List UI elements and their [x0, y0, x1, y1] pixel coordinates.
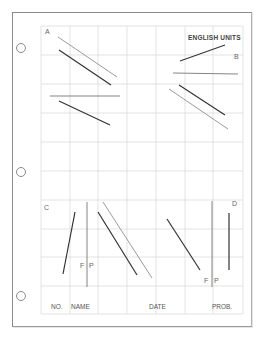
plane-label-d-profile: P	[214, 277, 219, 284]
problem-d-lines	[167, 201, 229, 287]
title-block-name: NAME	[71, 303, 90, 310]
plane-label-c-profile: P	[89, 262, 94, 269]
problem-b-lines	[169, 45, 238, 129]
plane-label-d-frontal: F	[204, 277, 208, 284]
plane-label-c-frontal: F	[80, 262, 84, 269]
title-block-prob: PROB.	[212, 303, 232, 310]
problem-a-label: A	[45, 28, 50, 35]
problem-d-label: D	[232, 200, 237, 207]
title-block-no: NO.	[51, 303, 63, 310]
problem-c-label: C	[44, 204, 49, 211]
problem-b-label: B	[234, 53, 239, 60]
title-block-date: DATE	[149, 303, 166, 310]
units-label: ENGLISH UNITS	[188, 34, 241, 41]
drawing-grid	[0, 0, 262, 343]
problem-a-lines	[50, 37, 120, 125]
problem-c-lines	[63, 202, 152, 287]
